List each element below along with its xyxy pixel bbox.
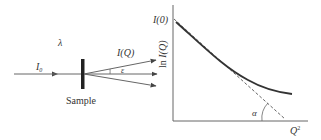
y-intercept-label: I(0) bbox=[152, 14, 169, 26]
x-axis-label: Q2 bbox=[290, 125, 300, 136]
slope-angle-arc bbox=[262, 103, 268, 121]
scattered-ray-up bbox=[84, 60, 156, 74]
wavelength-label: λ bbox=[57, 37, 63, 48]
guinier-plot: I(0) ln I(Q) α Q2 bbox=[152, 5, 308, 136]
scattered-ray-down bbox=[84, 74, 156, 86]
scattered-intensity-label: I(Q) bbox=[116, 47, 135, 59]
scattering-schematic: I0 λ Sample ε I(Q) bbox=[14, 37, 157, 106]
sample-plate bbox=[81, 59, 85, 89]
sample-label: Sample bbox=[66, 95, 97, 106]
guinier-diagram: I0 λ Sample ε I(Q) I(0) ln I(Q) α bbox=[0, 0, 321, 140]
slope-angle-label: α bbox=[252, 108, 257, 118]
guinier-curve bbox=[176, 22, 292, 94]
incident-intensity-label: I0 bbox=[35, 61, 42, 73]
y-axis-label: ln I(Q) bbox=[157, 40, 169, 68]
